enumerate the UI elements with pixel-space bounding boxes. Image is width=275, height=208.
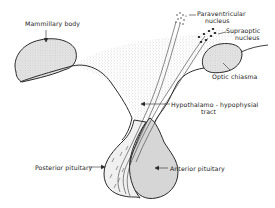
optic-nerve-outline <box>241 45 268 52</box>
label-paraventricular-line2: nucleus <box>189 17 246 24</box>
label-supraoptic-nucleus: Supraoptic nucleus <box>226 27 260 41</box>
label-supraoptic-line2: nucleus <box>235 34 260 41</box>
label-mammillary-body: Mammillary body <box>25 20 80 27</box>
label-anterior-pituitary: Anterior pituitary <box>170 165 225 172</box>
label-tract-line2: tract <box>201 108 258 115</box>
label-supraoptic-line1: Supraoptic <box>226 27 260 34</box>
label-paraventricular-line1: Paraventricular <box>197 10 246 17</box>
label-posterior-pituitary: Posterior pituitary <box>35 164 92 171</box>
label-hypothalamo-hypophysial-tract: Hypothalamo - hypophysial tract <box>171 101 258 115</box>
label-paraventricular-nucleus: Paraventricular nucleus <box>197 10 246 24</box>
label-optic-chiasma: Optic chiasma <box>212 73 258 80</box>
label-tract-line1: Hypothalamo - hypophysial <box>171 101 258 108</box>
paraventricular-nucleus <box>175 12 186 24</box>
mammillary-body <box>15 39 76 82</box>
